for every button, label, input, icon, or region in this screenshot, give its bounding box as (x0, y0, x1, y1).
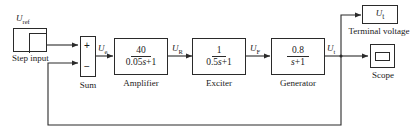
ur-subscript: R (179, 48, 183, 55)
amplifier-denominator: 0.05s+1 (121, 57, 161, 68)
block-diagram-canvas: Uref Step input + − Sum Ue 40 0.05s+1 Am… (0, 0, 417, 137)
uf-subscript: F (257, 48, 261, 55)
generator-block[interactable]: 0.8 s+1 (271, 38, 325, 75)
scope-label: Scope (360, 70, 406, 80)
signal-label-ue: Ue (98, 43, 107, 57)
amplifier-label: Amplifier (111, 78, 171, 88)
sum-label: Sum (66, 80, 110, 90)
terminal-voltage-caption: Terminal voltage (341, 26, 417, 36)
scope-block[interactable] (370, 44, 395, 68)
terminal-voltage-display[interactable]: Ut (362, 5, 398, 24)
generator-den-const: +1 (295, 57, 305, 67)
exciter-numerator: 1 (212, 45, 227, 57)
terminal-voltage-value: Ut (376, 8, 385, 21)
exciter-den-coeff: 0.5 (206, 57, 218, 67)
exciter-label: Exciter (189, 78, 249, 88)
step-input-label: Step input (3, 53, 58, 63)
generator-denominator: s+1 (286, 57, 310, 68)
tap-junction-dot (340, 55, 343, 58)
uref-subscript: ref (23, 18, 30, 25)
signal-label-uf: UF (250, 43, 260, 57)
amplifier-den-coeff: 0.05 (126, 57, 143, 67)
terminal-voltage-subscript: t (382, 12, 384, 21)
step-top-line (29, 33, 46, 34)
exciter-denominator: 0.5s+1 (201, 57, 237, 68)
sum-plus-sign: + (84, 41, 90, 51)
step-input-block[interactable] (13, 28, 47, 52)
signal-label-uref: Uref (16, 13, 30, 27)
amplifier-den-const: +1 (146, 57, 156, 67)
generator-label: Generator (268, 78, 328, 88)
sum-minus-sign: − (84, 62, 90, 72)
exciter-block[interactable]: 1 0.5s+1 (192, 38, 246, 75)
generator-numerator: 0.8 (287, 45, 309, 57)
ue-subscript: e (105, 48, 108, 55)
ut-subscript: t (334, 48, 336, 55)
step-riser-line (29, 33, 30, 53)
amplifier-numerator: 40 (131, 45, 151, 57)
amplifier-block[interactable]: 40 0.05s+1 (114, 38, 168, 75)
scope-screen-icon (375, 52, 390, 61)
signal-label-ut: Ut (327, 43, 335, 57)
exciter-den-const: +1 (222, 57, 232, 67)
signal-label-ur: UR (172, 43, 183, 57)
